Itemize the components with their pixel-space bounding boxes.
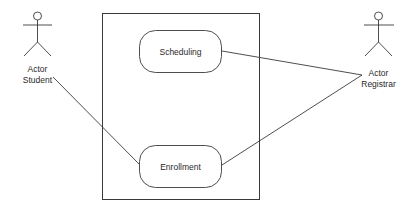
actor-student-label-line2: Student bbox=[23, 75, 53, 85]
actor-student[interactable]: Actor Student bbox=[23, 12, 53, 85]
actor-registrar-label-line1: Actor bbox=[369, 68, 389, 78]
stick-figure-icon bbox=[23, 12, 52, 56]
stick-figure-icon bbox=[364, 12, 394, 56]
association-registrar-enrollment[interactable] bbox=[222, 75, 362, 165]
use-case-scheduling-label: Scheduling bbox=[159, 47, 201, 57]
association-student-enrollment[interactable] bbox=[53, 77, 139, 164]
association-registrar-scheduling[interactable] bbox=[222, 51, 362, 75]
actor-student-label-line1: Actor bbox=[28, 64, 48, 74]
use-case-diagram: Scheduling Enrollment Actor Student Acto… bbox=[0, 0, 414, 207]
actor-registrar[interactable]: Actor Registrar bbox=[361, 12, 396, 89]
use-case-scheduling[interactable]: Scheduling bbox=[140, 31, 222, 73]
use-case-enrollment[interactable]: Enrollment bbox=[140, 146, 222, 188]
actor-registrar-label-line2: Registrar bbox=[361, 79, 396, 89]
use-case-enrollment-label: Enrollment bbox=[160, 162, 201, 172]
